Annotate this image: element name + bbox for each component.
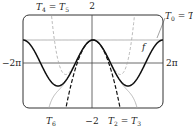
t01-leader-line — [157, 18, 165, 38]
y-bottom-label: −2 — [85, 116, 98, 126]
label-t6: T6 — [46, 116, 56, 127]
y-top-label: 2 — [89, 1, 95, 11]
label-t2-t3: T2 = T3 — [108, 116, 141, 127]
label-t0-t1: T0 = T1 — [165, 11, 193, 22]
series-t6 — [23, 40, 163, 128]
plot-frame — [23, 15, 163, 108]
x-left-label: −2π — [2, 58, 21, 68]
x-right-label: 2π — [166, 58, 178, 68]
taylor-polynomial-chart: 2 −2 −2π 2π T4 = T5 T0 = T1 f T6 T2 = T3 — [0, 0, 193, 128]
series-t2-t3 — [23, 40, 163, 128]
label-t4-t5: T4 = T5 — [36, 2, 69, 13]
label-f: f — [141, 42, 147, 52]
